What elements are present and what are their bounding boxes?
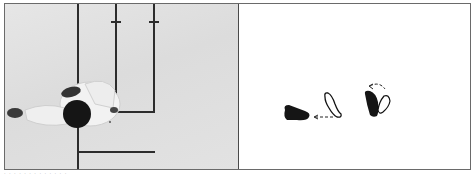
dashed-arrow-left-icon [314,115,333,119]
footprint-solid-left-icon [284,105,309,120]
footwork-diagram-panel [239,4,470,169]
figure-caption: · · · · · · · · · · · · · [4,170,67,176]
footprint-solid-right-icon [365,91,378,117]
figure [4,3,471,170]
footprint-outline-center-icon [325,93,341,117]
photo-panel [5,4,239,169]
person-figure [5,4,239,169]
footprint-outline-pivot-icon [378,96,390,114]
